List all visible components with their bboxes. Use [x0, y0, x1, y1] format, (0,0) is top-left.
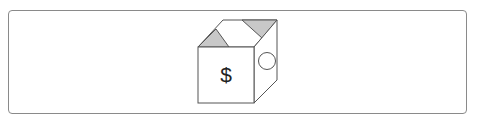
money-box-illustration: $	[0, 0, 477, 123]
box-side-circle	[259, 53, 276, 70]
dollar-sign-icon: $	[220, 63, 232, 86]
